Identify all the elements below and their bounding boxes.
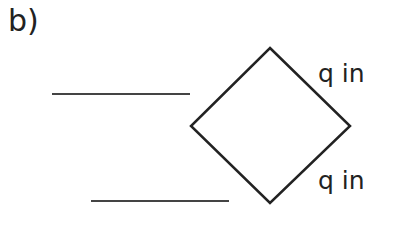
side-label-upper-right: q in [318, 60, 365, 88]
side-label-lower-right: q in [318, 167, 365, 195]
